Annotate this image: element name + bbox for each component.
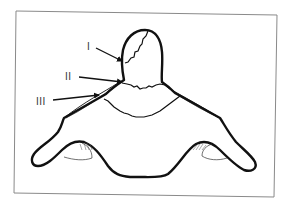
right-shoulder-line-outer (170, 89, 220, 118)
diagram-canvas: I II III (0, 0, 289, 206)
body-outline (32, 30, 256, 177)
arrow-zone-iii (53, 95, 99, 100)
lower-jagged-arc (104, 96, 180, 117)
label-zone-i: I (87, 41, 90, 52)
label-zone-iii: III (36, 96, 46, 107)
upper-fracture-line (125, 31, 148, 63)
arrow-zone-i (96, 48, 122, 61)
frame-border (14, 11, 277, 197)
label-zone-ii: II (65, 71, 72, 82)
arrow-zone-ii (79, 77, 122, 82)
